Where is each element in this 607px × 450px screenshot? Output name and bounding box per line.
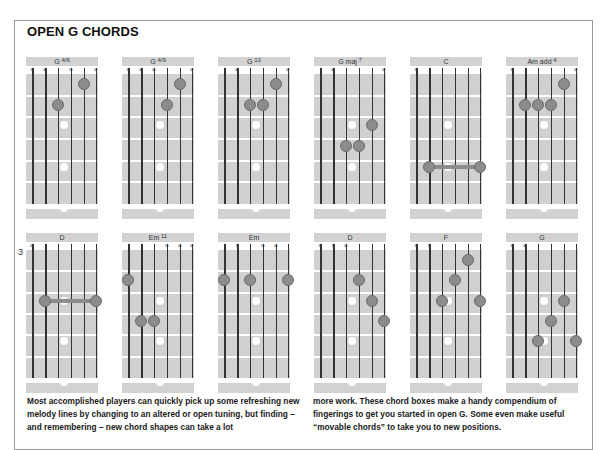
guitar-string [45,68,47,204]
finger-position [519,99,531,111]
chord-diagram: Emxoo [218,233,290,393]
guitar-string [192,244,193,378]
finger-position [532,99,544,111]
fretboard [506,74,578,204]
chord-name: F [410,233,482,242]
fret-line [410,116,482,118]
fret-line [314,313,386,315]
position-marker-dot [540,121,548,129]
finger-position [545,99,557,111]
finger-position [52,99,64,111]
fret-line [506,356,578,358]
position-marker-dot [252,297,260,305]
fretboard [218,250,290,378]
guitar-string [192,68,193,204]
chord-diagram: G 4/6xooo [26,57,98,219]
chord-name: D [26,233,98,242]
guitar-string [455,244,456,378]
fret-line [122,334,194,336]
chord-diagram: Dxxo [314,233,386,393]
guitar-string [480,244,481,378]
finger-position [353,274,365,286]
fret-line [122,313,194,315]
position-marker-dot [156,337,164,345]
fret-line [506,116,578,118]
fretboard [122,74,194,204]
position-marker-dot [348,297,356,305]
finger-position [257,99,269,111]
guitar-string [576,68,577,204]
guitar-string [224,68,226,204]
string-markers: x [410,66,482,74]
guitar-string [525,244,527,378]
string-markers: xoo [218,242,290,250]
chord-name: Em [218,233,290,242]
string-markers: xo [506,242,578,250]
guitar-string [141,244,143,378]
guitar-string [372,244,373,378]
guitar-string [237,68,239,204]
guitar-string [237,244,239,378]
fretboard [314,250,386,378]
position-marker-dot [540,297,548,305]
fret-line [26,116,98,118]
guitar-string [45,244,47,378]
position-marker-dot [60,204,68,212]
position-marker-dot [252,121,260,129]
guitar-string [359,68,360,204]
finger-position [436,295,448,307]
chord-diagram: Am add 4xo [506,57,578,219]
chord-diagram: G maj 7oo [314,57,386,219]
guitar-string [512,244,514,378]
chord-name: G maj 7 [314,57,386,66]
guitar-string [167,68,168,204]
fret-line [314,356,386,358]
fret-line [218,181,290,183]
fret-line [218,160,290,162]
fret-line [506,313,578,315]
chord-name: Em 11 [122,233,194,242]
finger-position [78,78,90,90]
guitar-string [250,244,251,378]
guitar-string [576,244,577,378]
guitar-string [442,68,443,204]
chord-name: G 4/6 [26,57,98,66]
position-marker-dot [156,163,164,171]
guitar-string [96,68,97,204]
chord-name: Am add 4 [506,57,578,66]
finger-position [353,140,365,152]
guitar-string [551,244,552,378]
fret-line [122,356,194,358]
guitar-string [320,68,322,204]
finger-position [270,78,282,90]
guitar-string [58,68,59,204]
position-marker-dot [252,378,260,386]
guitar-string [71,68,72,204]
fret-line [410,292,482,294]
fret-line [122,95,194,97]
finger-position [244,274,256,286]
guitar-string [96,244,97,378]
guitar-string [429,244,431,378]
finger-position [174,78,186,90]
finger-position [474,161,486,173]
guitar-string [333,68,335,204]
position-marker-dot [252,337,260,345]
fretboard [218,74,290,204]
fret-line [410,356,482,358]
guitar-string [551,68,552,204]
finger-position [366,295,378,307]
fret-line [410,160,482,162]
body-text-left: Most accomplished players can quickly pi… [27,395,302,434]
guitar-string [180,244,181,378]
finger-position [135,315,147,327]
position-marker-dot [60,121,68,129]
finger-position [545,315,557,327]
finger-position [474,295,486,307]
fret-line [122,160,194,162]
string-markers: oo [314,66,386,74]
fret-line [26,313,98,315]
chord-name: G [506,233,578,242]
finger-position [122,274,134,286]
finger-position [423,161,435,173]
